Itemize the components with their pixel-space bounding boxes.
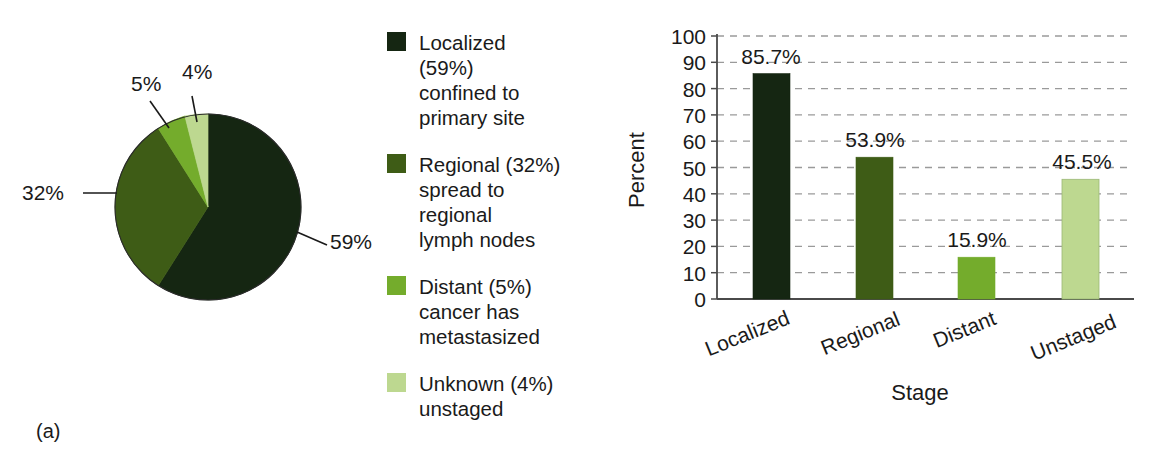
y-tick-label: 30 [683,209,706,232]
y-tick-label: 50 [683,157,706,180]
pie-label-localized: 59% [330,230,372,254]
bar-value-label-localized: 85.7% [741,45,801,68]
y-tick-labels: 100 90 80 70 60 50 40 30 20 10 0 [671,25,706,311]
legend-swatch-unknown [387,373,406,392]
legend-item-localized: Localized (59%) confined to primary site [387,30,602,130]
pie-label-regional: 32% [22,181,64,205]
legend-swatch-regional [387,154,406,173]
x-tick-label-unstaged: Unstaged [1027,310,1119,365]
legend-label-localized: Localized (59%) confined to primary site [419,30,525,130]
legend-swatch-distant [387,276,406,295]
panel-a-label: (a) [36,420,60,443]
pie-label-distant: 5% [131,72,161,96]
bar-regional [856,157,893,299]
legend: Localized (59%) confined to primary site… [387,30,602,443]
leader-line-5pct [150,101,169,128]
bar-value-label-distant: 15.9% [947,228,1007,251]
panel-a-pie-chart: 5% 4% 32% 59% Localized (59%) confined t… [0,0,610,467]
legend-item-regional: Regional (32%) spread to regional lymph … [387,152,602,252]
y-tick-label: 40 [683,183,706,206]
bar-value-label-regional: 53.9% [845,128,905,151]
bar-chart-svg: 100 90 80 70 60 50 40 30 20 10 0 85.7% 5… [610,0,1165,467]
y-tick-label: 100 [671,25,706,48]
legend-item-distant: Distant (5%) cancer has metastasized [387,274,602,349]
y-tick-label: 20 [683,235,706,258]
y-axis-title: Percent [624,132,649,208]
x-tick-labels: Localized Regional Distant Unstaged [702,306,1119,365]
leader-line-59pct [297,232,327,245]
legend-swatch-localized [387,32,406,51]
y-tick-marks [711,36,717,299]
legend-label-regional: Regional (32%) spread to regional lymph … [419,152,560,252]
x-tick-label-regional: Regional [817,307,902,359]
figure-container: 5% 4% 32% 59% Localized (59%) confined t… [0,0,1165,467]
y-tick-label: 70 [683,104,706,127]
panel-b-bar-chart: 100 90 80 70 60 50 40 30 20 10 0 85.7% 5… [610,0,1165,467]
x-tick-label-localized: Localized [702,306,793,361]
legend-label-unknown: Unknown (4%) unstaged [419,371,553,421]
y-tick-label: 10 [683,262,706,285]
x-axis-title: Stage [891,380,949,405]
bar-unstaged [1062,179,1099,299]
legend-label-distant: Distant (5%) cancer has metastasized [419,274,540,349]
bar-localized [753,74,790,299]
bar-value-label-unstaged: 45.5% [1052,150,1112,173]
y-tick-label: 0 [694,288,706,311]
legend-item-unknown: Unknown (4%) unstaged [387,371,602,421]
y-tick-label: 90 [683,51,706,74]
pie-label-unknown: 4% [182,60,212,84]
y-tick-label: 80 [683,78,706,101]
bar-distant [958,257,995,299]
y-tick-label: 60 [683,130,706,153]
x-tick-label-distant: Distant [930,306,999,352]
